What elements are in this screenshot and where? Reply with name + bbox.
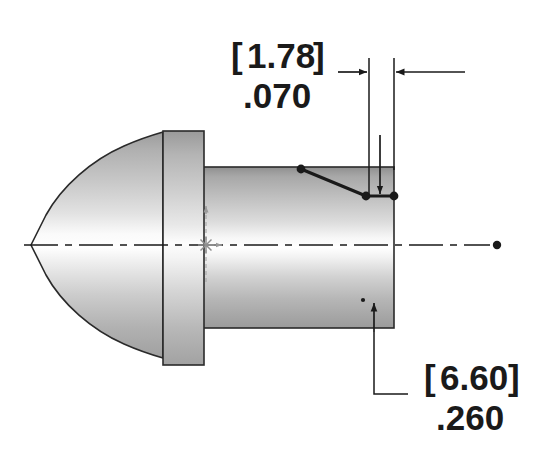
flange-band-profile [163, 131, 204, 365]
technical-drawing-canvas: [ 1.78 ] .070 [ 6.60 ] .260 [0, 0, 539, 458]
height-dim-imperial-value: .260 [436, 398, 504, 437]
width-dim-bracket-open: [ [231, 36, 243, 75]
width-dim-bracket-close: ] [313, 36, 325, 75]
width-dim-imperial-value: .070 [243, 76, 311, 115]
sketch-endpoint-dot-right [390, 192, 399, 201]
width-dim-metric-value: 1.78 [247, 36, 315, 75]
centerline-endpoint-dot [493, 241, 501, 249]
cylindrical-body-profile [200, 167, 394, 328]
height-dim-bracket-open: [ [424, 358, 436, 397]
height-leader-reference-dot [361, 298, 365, 302]
sketch-endpoint-dot-upper-left [297, 165, 306, 174]
height-dim-bracket-close: ] [508, 358, 520, 397]
height-dim-metric-value: 6.60 [440, 358, 508, 397]
